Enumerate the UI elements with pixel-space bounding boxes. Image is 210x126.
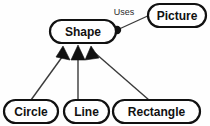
node-layer: Shape Picture Circle Line Rectangle bbox=[4, 4, 206, 123]
inheritance-arrowhead-icon bbox=[56, 46, 70, 60]
inheritance-arrowhead-icon bbox=[71, 45, 85, 60]
edge-circle-to-shape[interactable] bbox=[31, 46, 70, 100]
edge-rectangle-to-shape[interactable] bbox=[85, 46, 149, 100]
node-circle[interactable]: Circle bbox=[4, 100, 58, 123]
edge-shape-uses-picture[interactable]: Uses bbox=[113, 7, 152, 34]
node-label-line: Line bbox=[74, 105, 99, 119]
node-shape[interactable]: Shape bbox=[50, 20, 116, 43]
node-picture[interactable]: Picture bbox=[148, 4, 206, 27]
inheritance-line bbox=[95, 53, 149, 100]
edge-line-to-shape[interactable] bbox=[71, 45, 85, 100]
class-diagram: Uses Shape bbox=[0, 0, 210, 126]
inheritance-arrowhead-icon bbox=[85, 46, 99, 60]
node-label-circle: Circle bbox=[14, 105, 48, 119]
node-label-shape: Shape bbox=[65, 25, 101, 39]
node-label-picture: Picture bbox=[157, 9, 198, 23]
diagram-canvas: Uses Shape bbox=[0, 0, 210, 126]
node-rectangle[interactable]: Rectangle bbox=[113, 100, 200, 123]
inheritance-line bbox=[31, 53, 65, 100]
node-label-rectangle: Rectangle bbox=[128, 105, 186, 119]
edge-label-uses: Uses bbox=[114, 7, 135, 17]
node-line[interactable]: Line bbox=[64, 100, 109, 123]
